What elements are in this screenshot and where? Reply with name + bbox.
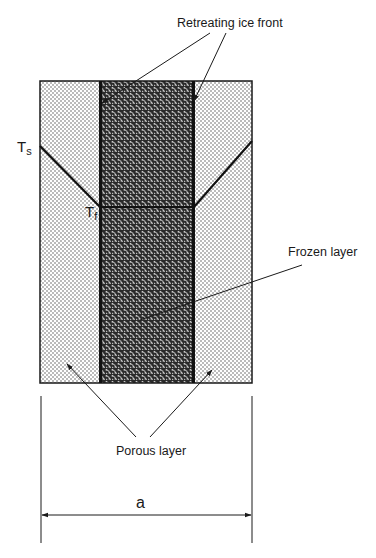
frozen-layer <box>100 81 194 383</box>
ts-label: Ts <box>17 138 32 157</box>
porous-layer-label: Porous layer <box>116 444 186 458</box>
tf-label-sub: f <box>94 210 97 222</box>
ts-label-sub: s <box>26 145 32 157</box>
tf-label: Tf <box>85 203 97 222</box>
dimension-label-a: a <box>136 494 145 512</box>
porous-frozen-layer-diagram <box>0 0 376 558</box>
left-porous-layer <box>40 81 100 383</box>
right-porous-layer <box>194 81 252 383</box>
frozen-layer-label: Frozen layer <box>288 245 357 259</box>
ts-label-main: T <box>17 138 26 155</box>
tf-label-main: T <box>85 203 94 220</box>
retreating-ice-front-label: Retreating ice front <box>177 16 283 30</box>
